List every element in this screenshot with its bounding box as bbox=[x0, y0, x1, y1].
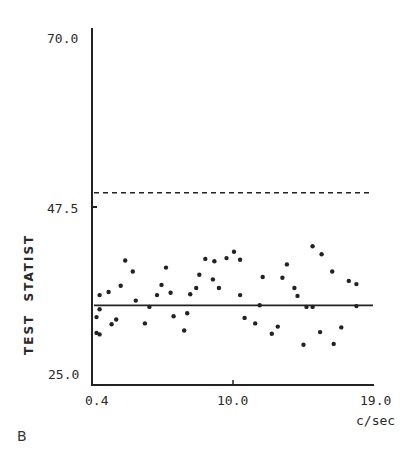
data-points bbox=[94, 244, 358, 347]
data-point bbox=[109, 322, 113, 326]
data-point bbox=[310, 305, 314, 309]
data-point bbox=[131, 269, 135, 273]
data-point bbox=[212, 259, 216, 263]
data-point bbox=[123, 258, 127, 262]
scatter-plot bbox=[0, 0, 413, 471]
data-point bbox=[285, 262, 289, 266]
data-point bbox=[347, 279, 351, 283]
data-point bbox=[164, 265, 168, 269]
data-point bbox=[304, 305, 308, 309]
data-point bbox=[280, 276, 284, 280]
data-point bbox=[119, 284, 123, 288]
data-point bbox=[330, 269, 334, 273]
x-tick-0-4: 0.4 bbox=[85, 393, 108, 408]
y-tick-47-5: 47.5 bbox=[47, 201, 78, 216]
y-tick-70: 70.0 bbox=[47, 31, 78, 46]
data-point bbox=[253, 321, 257, 325]
data-point bbox=[106, 290, 110, 294]
data-point bbox=[97, 307, 101, 311]
data-point bbox=[238, 293, 242, 297]
data-point bbox=[171, 314, 175, 318]
data-point bbox=[319, 252, 323, 256]
data-point bbox=[258, 303, 262, 307]
data-point bbox=[232, 250, 236, 254]
data-point bbox=[339, 325, 343, 329]
data-point bbox=[332, 342, 336, 346]
data-point bbox=[242, 316, 246, 320]
data-point bbox=[224, 256, 228, 260]
data-point bbox=[134, 298, 138, 302]
data-point bbox=[194, 286, 198, 290]
y-tick-25: 25.0 bbox=[48, 367, 79, 382]
data-point bbox=[217, 286, 221, 290]
y-axis-label: TEST STATIST bbox=[22, 234, 36, 355]
data-point bbox=[155, 293, 159, 297]
data-point bbox=[147, 305, 151, 309]
x-axis-label: c/sec bbox=[356, 413, 395, 428]
data-point bbox=[182, 328, 186, 332]
data-point bbox=[203, 257, 207, 261]
data-point bbox=[318, 330, 322, 334]
data-point bbox=[94, 315, 98, 319]
data-point bbox=[292, 286, 296, 290]
data-point bbox=[143, 321, 147, 325]
reference-lines bbox=[94, 193, 373, 305]
data-point bbox=[270, 332, 274, 336]
data-point bbox=[211, 277, 215, 281]
data-point bbox=[295, 294, 299, 298]
x-tick-10: 10.0 bbox=[217, 393, 248, 408]
data-point bbox=[197, 273, 201, 277]
data-point bbox=[159, 283, 163, 287]
x-tick-19: 19.0 bbox=[360, 393, 391, 408]
data-point bbox=[168, 291, 172, 295]
data-point bbox=[238, 258, 242, 262]
data-point bbox=[276, 324, 280, 328]
data-point bbox=[301, 343, 305, 347]
data-point bbox=[188, 292, 192, 296]
data-point bbox=[114, 317, 118, 321]
data-point bbox=[97, 332, 101, 336]
data-point bbox=[261, 275, 265, 279]
data-point bbox=[185, 311, 189, 315]
data-point bbox=[310, 244, 314, 248]
axis-ticks bbox=[92, 207, 233, 385]
panel-label: B bbox=[17, 428, 27, 444]
data-point bbox=[354, 282, 358, 286]
data-point bbox=[354, 304, 358, 308]
data-point bbox=[97, 293, 101, 297]
